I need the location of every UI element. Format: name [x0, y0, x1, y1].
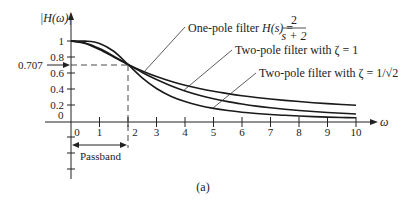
y-tick-label: 1 [59, 35, 65, 47]
y-0707-arrow-icon [63, 62, 70, 68]
x-tick-label: 6 [239, 126, 245, 138]
x-axis-arrow-icon [370, 119, 378, 125]
y-tick-label: 0.6 [50, 67, 64, 79]
x-tick-label: 10 [351, 126, 363, 138]
leader-one-pole [143, 27, 185, 73]
y-0707-label: 0.707 [18, 59, 43, 71]
passband-arrow-right-icon [120, 142, 127, 148]
figure-caption: (a) [196, 180, 209, 194]
x-tick-label: 2 [132, 126, 138, 138]
one-pole-numerator: 2 [291, 13, 297, 27]
x-ticks: 012345678910 [74, 117, 362, 138]
y-axis-label: |H(ω)| [40, 11, 72, 25]
one-pole-denominator: s + 2 [282, 29, 307, 43]
x-tick-label: 5 [211, 126, 217, 138]
x-tick-label: 1 [97, 126, 103, 138]
leader-two-pole-zeta1 [183, 50, 232, 91]
x-tick-label: 4 [182, 126, 188, 138]
one-pole-label: One-pole filter H(s) = [188, 21, 293, 35]
x-tick-label: 7 [268, 126, 274, 138]
x-tick-label: 9 [325, 126, 331, 138]
x-tick-label: 3 [154, 126, 160, 138]
filter-response-chart: 00.20.40.60.81 012345678910 |H(ω)| ω 0.7… [0, 0, 407, 204]
y-tick-label: 0.2 [50, 99, 64, 111]
x-axis-label: ω [380, 115, 388, 129]
y-tick-label: 0.4 [50, 83, 64, 95]
passband-arrow-left-icon [72, 142, 79, 148]
x-tick-label: 8 [296, 126, 302, 138]
two-pole-butterworth-label: Two-pole filter with ζ = 1/√2 [259, 66, 398, 80]
y-tick-label: 0.8 [50, 51, 64, 63]
x-tick-label: 0 [74, 126, 80, 138]
passband-label: Passband [80, 150, 121, 162]
two-pole-zeta1-label: Two-pole filter with ζ = 1 [235, 43, 358, 57]
